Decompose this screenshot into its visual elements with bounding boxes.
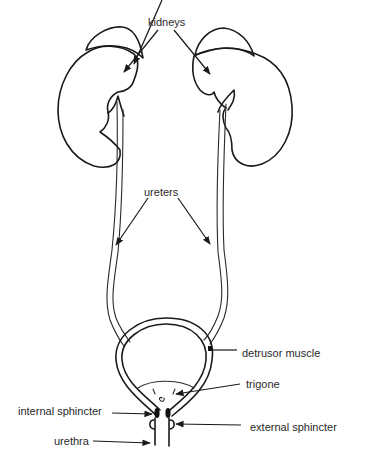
- left-ureter: [107, 102, 130, 346]
- internal-sphincter-left: [154, 408, 159, 418]
- urinary-system-diagram: kidneys ureters detrusor muscle trigone …: [0, 0, 366, 469]
- label-internal-sphincter: internal sphincter: [18, 405, 152, 417]
- external-sphincter-left: [150, 420, 154, 429]
- trigone-shape: [138, 381, 194, 388]
- internal-sphincter-label: internal sphincter: [18, 405, 102, 417]
- right-ureter: [204, 104, 228, 344]
- detrusor-muscle-label: detrusor muscle: [242, 347, 320, 359]
- trigone-label: trigone: [246, 378, 280, 390]
- label-external-sphincter: external sphincter: [176, 421, 337, 433]
- label-detrusor-muscle: detrusor muscle: [212, 347, 320, 359]
- external-sphincter-right: [170, 420, 174, 429]
- label-ureters: ureters: [116, 186, 210, 245]
- bladder: [116, 318, 213, 446]
- urethra-label: urethra: [54, 435, 90, 447]
- left-kidney: [58, 27, 143, 167]
- internal-sphincter-right: [165, 408, 170, 418]
- label-urethra: urethra: [54, 435, 150, 447]
- external-sphincter-label: external sphincter: [250, 421, 337, 433]
- ureters-label: ureters: [144, 186, 179, 198]
- right-kidney: [193, 28, 292, 166]
